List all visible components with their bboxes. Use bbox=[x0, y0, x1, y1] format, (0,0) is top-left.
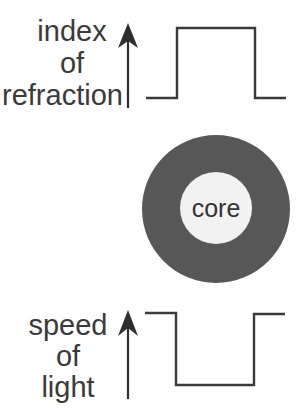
core-label: core bbox=[176, 194, 256, 223]
diagram-graphics bbox=[0, 0, 304, 416]
bottom-up-arrow-icon bbox=[118, 310, 138, 399]
refractive-index-profile bbox=[146, 28, 286, 98]
speed-of-light-profile bbox=[145, 313, 285, 385]
top-up-arrow-icon bbox=[118, 23, 138, 108]
